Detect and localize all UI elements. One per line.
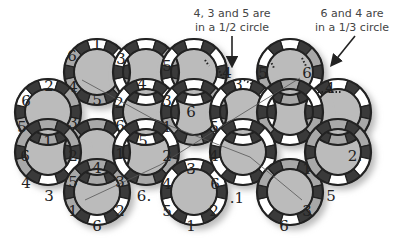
annotation-half-circle-line2: in a 1/2 circle bbox=[192, 21, 272, 35]
segment-number: 5 bbox=[209, 118, 219, 136]
segment-number: 4 bbox=[222, 64, 232, 82]
annotation-half-circle: 4, 3 and 5 are in a 1/2 circle bbox=[192, 7, 272, 35]
segment-number: 5 bbox=[258, 64, 268, 82]
segment-number: 1 bbox=[115, 145, 125, 163]
segment-number: 1 bbox=[162, 118, 172, 136]
segment-number: 6 bbox=[67, 47, 77, 65]
segment-number: 5 bbox=[326, 187, 336, 205]
segment-number: 5 bbox=[17, 118, 27, 136]
segment-number: 2 bbox=[115, 202, 125, 220]
segment-number: 2. bbox=[348, 147, 362, 165]
segment-number: 2 bbox=[44, 77, 54, 95]
segment-number: 6 bbox=[21, 92, 31, 110]
segment-number: 3 bbox=[233, 76, 243, 94]
segment-number: 4 bbox=[21, 174, 31, 192]
segment-number: 3 bbox=[162, 92, 172, 110]
annotation-third-circle: 6 and 4 are in a 1/3 circle bbox=[312, 7, 392, 35]
segment-number: 2 bbox=[209, 202, 219, 220]
segment-number: 2 bbox=[114, 94, 124, 112]
segment-number: 4 bbox=[325, 79, 335, 97]
segment-number: 4 bbox=[162, 175, 172, 193]
segment-number: 5 bbox=[68, 173, 78, 191]
diagram-stage: 163244565235366151562124434534636..112.5… bbox=[0, 0, 394, 247]
segment-number: 2 bbox=[68, 147, 78, 165]
segment-number: 6 bbox=[210, 175, 220, 193]
segment-number: 5 bbox=[162, 202, 172, 220]
segment-number: 6 bbox=[279, 217, 289, 235]
annotation-third-circle-line2: in a 1/3 circle bbox=[312, 21, 392, 35]
annotation-third-circle-line1: 6 and 4 are bbox=[312, 7, 392, 21]
segment-number: .1 bbox=[230, 189, 244, 207]
segment-number: 3 bbox=[302, 202, 312, 220]
segment-number: 1 bbox=[92, 35, 102, 53]
segment-number: 6 bbox=[186, 103, 196, 121]
annotation-half-circle-line1: 4, 3 and 5 are bbox=[192, 7, 272, 21]
segment-number: 1 bbox=[68, 202, 78, 220]
segment-number: 3 bbox=[115, 173, 125, 191]
segment-number: 6 bbox=[115, 117, 125, 135]
segment-number: 4 bbox=[92, 159, 102, 177]
segment-number: 6 bbox=[20, 147, 30, 165]
segment-number: 5 bbox=[162, 57, 172, 75]
segment-number: 3 bbox=[116, 50, 126, 68]
segment-number: 4 bbox=[68, 78, 78, 96]
segment-number: 6. bbox=[137, 187, 151, 205]
segment-number: 1 bbox=[302, 160, 312, 178]
segment-number: 2 bbox=[162, 147, 172, 165]
segment-number: 6 bbox=[302, 64, 312, 82]
ring-tile-diagram: 163244565235366151562124434534636..112.5… bbox=[0, 0, 394, 247]
arrow-third-circle bbox=[334, 36, 355, 62]
segment-number: 3 bbox=[68, 114, 78, 132]
segment-number: 3 bbox=[186, 160, 196, 178]
segment-number: 5 bbox=[92, 91, 102, 109]
segment-number: 5 bbox=[138, 132, 148, 150]
segment-number: 4 bbox=[209, 147, 219, 165]
segment-number: 4 bbox=[137, 75, 147, 93]
segment-number: 6 bbox=[92, 217, 102, 235]
segment-number: 1 bbox=[43, 132, 53, 150]
segment-number: 1 bbox=[186, 217, 196, 235]
segment-number: 3 bbox=[44, 187, 54, 205]
